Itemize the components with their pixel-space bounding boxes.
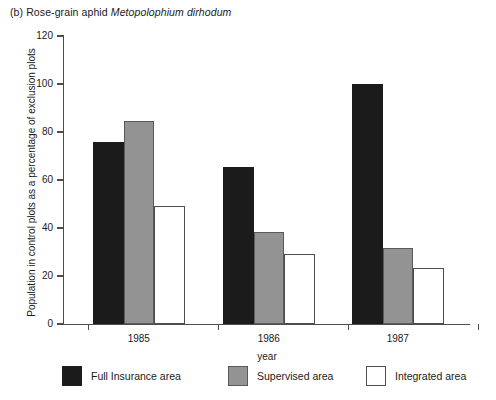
bar-1987-integ xyxy=(413,268,444,324)
figure-panel-b: (b) Rose-grain aphid Metopolophium dirho… xyxy=(0,0,496,400)
y-tick-40 xyxy=(57,227,63,228)
legend-swatch-full xyxy=(62,366,82,386)
chart-title-common-name: Rose-grain aphid xyxy=(26,6,108,18)
x-tick-label-1987: 1987 xyxy=(358,333,438,344)
x-tick-3 xyxy=(478,324,479,330)
y-tick-100 xyxy=(57,83,63,84)
y-tick-60 xyxy=(57,179,63,180)
bar-1985-sup xyxy=(124,121,155,324)
bar-1985-full xyxy=(93,142,124,324)
legend-item-1: Supervised area xyxy=(228,366,333,386)
legend-swatch-sup xyxy=(228,366,248,386)
legend-item-0: Full Insurance area xyxy=(62,366,181,386)
legend-swatch-integ xyxy=(366,366,386,386)
bar-1985-integ xyxy=(154,206,185,324)
legend-label-sup: Supervised area xyxy=(257,370,333,382)
x-tick-1 xyxy=(218,324,219,330)
y-tick-80 xyxy=(57,131,63,132)
chart-title: (b) Rose-grain aphid Metopolophium dirho… xyxy=(10,6,231,18)
legend-label-integ: Integrated area xyxy=(395,370,466,382)
y-tick-20 xyxy=(57,275,63,276)
bar-1986-sup xyxy=(254,232,285,324)
legend-item-2: Integrated area xyxy=(366,366,466,386)
legend-label-full: Full Insurance area xyxy=(91,370,181,382)
chart-legend: Full Insurance areaSupervised areaIntegr… xyxy=(0,366,496,394)
bar-group-container xyxy=(64,36,470,324)
x-tick-label-1985: 1985 xyxy=(99,333,179,344)
bar-1987-sup xyxy=(383,248,414,324)
bar-1986-full xyxy=(223,167,254,324)
y-axis-title: Population in control plots as a percent… xyxy=(26,43,37,323)
x-tick-2 xyxy=(348,324,349,330)
y-tick-label-120: 120 xyxy=(17,31,53,41)
chart-title-panel-letter: (b) xyxy=(10,6,23,18)
x-tick-label-1986: 1986 xyxy=(229,333,309,344)
plot-area xyxy=(64,36,470,324)
y-tick-120 xyxy=(57,35,63,36)
y-tick-0 xyxy=(57,323,63,324)
chart-title-species-name: Metopolophium dirhodum xyxy=(111,6,232,18)
x-tick-0 xyxy=(88,324,89,330)
x-axis-title: year xyxy=(207,351,327,362)
bar-1986-integ xyxy=(284,254,315,324)
bar-1987-full xyxy=(352,84,383,324)
